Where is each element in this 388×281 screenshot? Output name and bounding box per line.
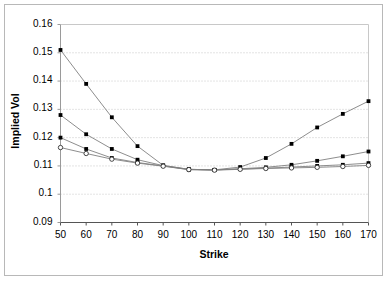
series-line <box>61 115 369 170</box>
data-point-marker <box>187 167 191 171</box>
series-1 <box>59 48 371 172</box>
data-point-marker <box>84 147 88 151</box>
data-point-marker <box>59 48 63 52</box>
series-4 <box>58 145 370 172</box>
data-point-marker <box>136 144 140 148</box>
data-point-marker <box>110 115 114 119</box>
data-point-marker <box>367 150 371 154</box>
data-point-marker <box>315 165 319 169</box>
data-point-marker <box>341 164 345 168</box>
data-point-marker <box>135 161 139 165</box>
data-point-marker <box>367 99 371 103</box>
data-point-marker <box>84 82 88 86</box>
data-point-marker <box>59 136 63 140</box>
series-line <box>61 148 369 171</box>
data-point-marker <box>84 132 88 136</box>
implied-vol-chart: Implied Vol Strike 0.090.10.110.120.130.… <box>0 0 388 281</box>
data-point-marker <box>58 145 62 149</box>
data-point-marker <box>110 157 114 161</box>
data-point-marker <box>161 164 165 168</box>
data-point-marker <box>238 167 242 171</box>
plot-area <box>0 0 388 281</box>
data-point-marker <box>341 112 345 116</box>
series-line <box>61 138 369 170</box>
data-point-marker <box>341 154 345 158</box>
data-point-marker <box>315 159 319 163</box>
data-point-marker <box>264 166 268 170</box>
data-point-marker <box>264 156 268 160</box>
data-point-marker <box>212 168 216 172</box>
series-line <box>61 50 369 170</box>
series-2 <box>59 113 371 172</box>
data-point-marker <box>366 163 370 167</box>
data-point-marker <box>289 166 293 170</box>
data-point-marker <box>110 147 114 151</box>
data-point-marker <box>290 142 294 146</box>
data-point-marker <box>59 113 63 117</box>
data-point-marker <box>84 151 88 155</box>
data-point-marker <box>315 126 319 130</box>
